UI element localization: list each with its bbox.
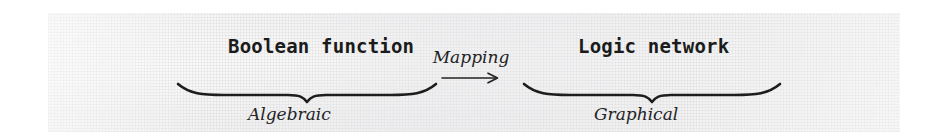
algebraic-caption: Algebraic [248,106,331,123]
boolean-function-title: Boolean function [228,37,414,56]
long-right-arrow-icon [440,71,502,85]
logic-network-title: Logic network [578,37,729,56]
mapping-label: Mapping [433,47,510,67]
underbrace-right-icon [522,82,782,104]
graphical-caption: Graphical [594,106,678,123]
underbrace-left-icon [176,82,438,104]
mapping-relation: Mapping [423,49,519,85]
figure-canvas: Boolean function Algebraic Mapping Logic… [0,0,944,139]
